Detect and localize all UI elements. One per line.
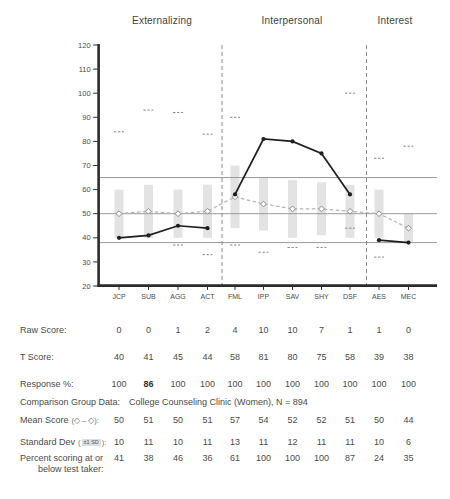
- cell-t-JCP: 40: [103, 352, 135, 362]
- cell-resp-SHY: 100: [306, 379, 338, 389]
- cell-pct-SHY: 100: [306, 453, 338, 463]
- cell-resp-SAV: 100: [277, 379, 309, 389]
- scale-label-SAV: SAV: [286, 293, 300, 300]
- y-tick-label: 30: [82, 258, 90, 267]
- cell-t-AGG: 45: [162, 352, 194, 362]
- cell-mean-SAV: 52: [277, 415, 309, 425]
- cell-mean-FML: 57: [219, 415, 251, 425]
- y-tick-label: 50: [82, 209, 90, 218]
- scale-label-SUB: SUB: [141, 293, 156, 300]
- cell-pct-JCP: 41: [103, 453, 135, 463]
- t-score-point-MEC: [406, 241, 410, 245]
- cell-pct-MEC: 35: [393, 453, 425, 463]
- y-tick-label: 120: [78, 41, 91, 50]
- cell-sd-AGG: 10: [162, 437, 194, 447]
- scale-label-AES: AES: [372, 293, 386, 300]
- mean-line-legend: (◇ – ◇):: [72, 416, 99, 425]
- cell-sd-SUB: 11: [133, 437, 165, 447]
- t-score-point-ACT: [205, 226, 209, 230]
- t-score-point-FML: [233, 192, 237, 196]
- cell-t-MEC: 38: [393, 352, 425, 362]
- cell-mean-AGG: 50: [162, 415, 194, 425]
- cell-sd-DSF: 11: [334, 437, 366, 447]
- scale-label-ACT: ACT: [201, 293, 216, 300]
- cell-t-SHY: 75: [306, 352, 338, 362]
- cell-raw-AES: 1: [363, 325, 395, 335]
- t-score-point-JCP: [117, 236, 121, 240]
- cell-resp-FML: 100: [219, 379, 251, 389]
- scale-label-FML: FML: [228, 293, 242, 300]
- cell-sd-SHY: 11: [306, 437, 338, 447]
- cell-raw-SUB: 0: [133, 325, 165, 335]
- t-score-point-AES: [377, 238, 381, 242]
- cell-sd-FML: 13: [219, 437, 251, 447]
- cell-raw-SHY: 7: [306, 325, 338, 335]
- score-profile-report: Externalizing Interpersonal Interest 203…: [0, 0, 450, 499]
- cell-resp-JCP: 100: [103, 379, 135, 389]
- raw-score-label: Raw Score:: [20, 325, 67, 336]
- cell-t-IPP: 81: [248, 352, 280, 362]
- cell-mean-JCP: 50: [103, 415, 135, 425]
- cell-resp-IPP: 100: [248, 379, 280, 389]
- cell-pct-AES: 24: [363, 453, 395, 463]
- cell-resp-DSF: 100: [334, 379, 366, 389]
- mean-score-label: Mean Score(◇ – ◇):: [20, 415, 99, 427]
- cell-raw-IPP: 10: [248, 325, 280, 335]
- cell-t-SAV: 80: [277, 352, 309, 362]
- percent-below-label: Percent scoring at or below test taker:: [20, 453, 104, 474]
- profile-chart: 2030405060708090100110120JCPSUBAGGACTFML…: [0, 0, 450, 312]
- t-score-point-SHY: [319, 151, 323, 155]
- cell-sd-SAV: 12: [277, 437, 309, 447]
- cell-pct-DSF: 87: [334, 453, 366, 463]
- comparison-group-value: College Counseling Clinic (Women), N = 8…: [129, 397, 308, 407]
- cell-mean-DSF: 51: [334, 415, 366, 425]
- cell-sd-AES: 10: [363, 437, 395, 447]
- y-tick-label: 60: [82, 185, 90, 194]
- y-tick-label: 70: [82, 161, 90, 170]
- cell-pct-IPP: 100: [248, 453, 280, 463]
- cell-raw-JCP: 0: [103, 325, 135, 335]
- cell-raw-FML: 4: [219, 325, 251, 335]
- t-score-point-DSF: [348, 192, 352, 196]
- cell-mean-MEC: 44: [393, 415, 425, 425]
- cell-mean-AES: 50: [363, 415, 395, 425]
- y-tick-label: 90: [82, 113, 90, 122]
- t-score-point-AGG: [176, 224, 180, 228]
- t-score-point-IPP: [261, 137, 265, 141]
- cell-mean-SUB: 51: [133, 415, 165, 425]
- scale-label-IPP: IPP: [258, 293, 270, 300]
- cell-t-DSF: 58: [334, 352, 366, 362]
- cell-mean-IPP: 54: [248, 415, 280, 425]
- y-tick-label: 40: [82, 233, 90, 242]
- t-score-line-externalizing: [119, 226, 208, 238]
- cell-raw-AGG: 1: [162, 325, 194, 335]
- cell-raw-DSF: 1: [334, 325, 366, 335]
- scale-label-DSF: DSF: [343, 293, 357, 300]
- cell-raw-MEC: 0: [393, 325, 425, 335]
- y-tick-label: 100: [78, 89, 91, 98]
- cell-sd-MEC: 6: [393, 437, 425, 447]
- sd-band-legend: ±1 SD: [82, 439, 101, 446]
- scale-label-AGG: AGG: [170, 293, 186, 300]
- standard-dev-label: Standard Dev(±1 SD):: [20, 437, 106, 449]
- y-tick-label: 110: [79, 65, 91, 74]
- scale-label-MEC: MEC: [401, 293, 417, 300]
- cell-resp-MEC: 100: [393, 379, 425, 389]
- y-tick-label: 80: [82, 137, 90, 146]
- cell-t-AES: 39: [363, 352, 395, 362]
- response-pct-label: Response %:: [20, 379, 74, 390]
- cell-t-SUB: 41: [133, 352, 165, 362]
- cell-resp-SUB: 86: [133, 379, 165, 389]
- cell-pct-SAV: 100: [277, 453, 309, 463]
- t-score-point-SUB: [146, 233, 150, 237]
- cell-t-FML: 58: [219, 352, 251, 362]
- cell-mean-SHY: 52: [306, 415, 338, 425]
- cell-pct-SUB: 38: [133, 453, 165, 463]
- cell-resp-AES: 100: [363, 379, 395, 389]
- cell-pct-AGG: 46: [162, 453, 194, 463]
- cell-raw-SAV: 10: [277, 325, 309, 335]
- scale-label-SHY: SHY: [314, 293, 329, 300]
- scale-label-JCP: JCP: [112, 293, 126, 300]
- cell-sd-IPP: 11: [248, 437, 280, 447]
- t-score-point-SAV: [290, 139, 294, 143]
